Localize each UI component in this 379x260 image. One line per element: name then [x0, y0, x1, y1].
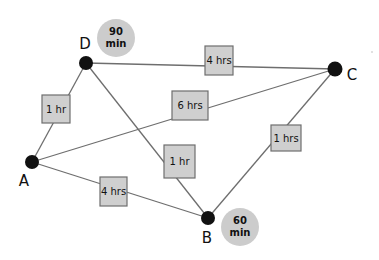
svg-text:4 hrs: 4 hrs [206, 55, 231, 66]
node-c: C [328, 62, 358, 85]
node-b: B [201, 211, 215, 247]
node-a-label: A [19, 172, 30, 190]
node-d-label: D [79, 35, 91, 53]
edge-label-a-c: 6 hrs [172, 91, 208, 120]
artifact-dot [371, 51, 373, 53]
svg-text:1 hr: 1 hr [170, 156, 191, 167]
wait-time-b: 60 min [221, 208, 259, 246]
wait-time-b-value: 60 [233, 215, 247, 226]
node-d: D [79, 35, 93, 70]
edge-label-c-b: 1 hrs [271, 125, 301, 151]
node-a: A [19, 155, 39, 190]
edge-label-d-a: 1 hr [42, 95, 70, 123]
wait-time-b-unit: min [230, 227, 251, 238]
svg-text:6 hrs: 6 hrs [177, 100, 202, 111]
wait-time-d-value: 90 [109, 26, 123, 37]
wait-time-d-unit: min [106, 38, 127, 49]
edge-label-d-c: 4 hrs [205, 46, 233, 75]
svg-text:4 hrs: 4 hrs [101, 186, 126, 197]
edge-label-a-b: 4 hrs [100, 177, 127, 206]
edge-label-d-b: 1 hr [164, 145, 195, 178]
svg-text:1 hr: 1 hr [46, 104, 67, 115]
svg-text:1 hrs: 1 hrs [273, 133, 298, 144]
node-b-label: B [202, 229, 212, 247]
node-c-label: C [347, 66, 357, 84]
wait-time-d: 90 min [97, 19, 135, 57]
graph-diagram: 90 min 60 min 1 hr 4 hrs 6 hrs 1 hr 1 hr… [0, 0, 379, 260]
